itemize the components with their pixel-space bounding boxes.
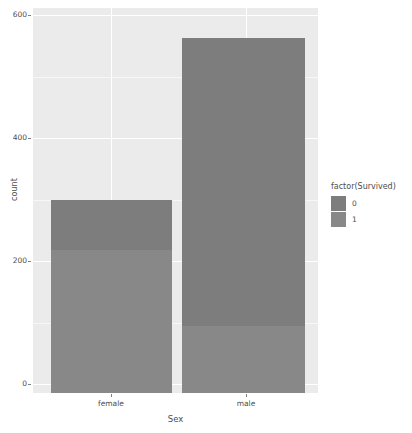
plot-panel <box>33 8 318 393</box>
y-tick-mark-600 <box>28 15 31 16</box>
legend-label-1: 1 <box>352 215 357 224</box>
y-tick-label-0: 0 <box>5 380 27 388</box>
legend-item-0[interactable]: 0 <box>331 195 411 211</box>
bar-chart: count 0 200 400 600 <box>0 0 412 433</box>
bar-female <box>51 200 172 393</box>
bar-segment-female-0 <box>51 200 172 250</box>
y-tick-label-200: 200 <box>5 257 27 265</box>
bar-segment-male-1 <box>182 326 305 393</box>
x-tick-label-male: male <box>206 399 286 408</box>
y-axis-tick-labels: 0 200 400 600 <box>3 0 27 433</box>
legend-swatch-0 <box>331 196 346 211</box>
y-tick-mark-200 <box>28 261 31 262</box>
legend-title: factor(Survived) <box>331 182 411 191</box>
bar-male <box>182 38 305 393</box>
y-tick-mark-0 <box>28 384 31 385</box>
y-tick-label-600: 600 <box>5 11 27 19</box>
gridline-major-600 <box>33 15 318 16</box>
bar-segment-male-0 <box>182 38 305 326</box>
x-axis-title: Sex <box>33 414 318 424</box>
x-tick-mark-female <box>111 394 112 397</box>
x-tick-mark-male <box>246 394 247 397</box>
legend: factor(Survived) 0 1 <box>331 182 411 227</box>
y-tick-label-400: 400 <box>5 134 27 142</box>
legend-label-0: 0 <box>352 199 357 208</box>
y-tick-mark-400 <box>28 138 31 139</box>
x-tick-label-female: female <box>71 399 151 408</box>
bar-segment-female-1 <box>51 250 172 393</box>
legend-item-1[interactable]: 1 <box>331 211 411 227</box>
legend-swatch-1 <box>331 212 346 227</box>
